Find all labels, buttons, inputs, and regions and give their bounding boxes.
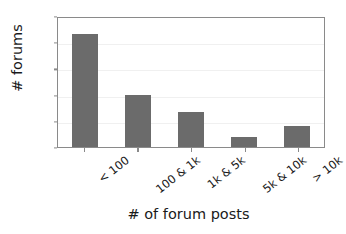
- x-tick-mark: [298, 148, 299, 152]
- x-tick-label: 1k & 5k: [205, 153, 248, 191]
- bar: [284, 126, 310, 147]
- x-tick-mark: [191, 148, 192, 152]
- x-tick-label: 100 & 1k: [153, 153, 203, 196]
- bar: [125, 95, 151, 147]
- bar-series: [58, 18, 324, 147]
- x-tick-label: > 10k: [310, 153, 346, 185]
- y-axis-title: # forums: [9, 8, 25, 108]
- bar: [72, 34, 98, 147]
- x-tick-mark: [137, 148, 138, 152]
- x-tick-mark: [245, 148, 246, 152]
- x-tick-label: < 100: [95, 153, 131, 186]
- bar: [231, 137, 257, 147]
- x-tick-label: 5k & 10k: [260, 153, 309, 196]
- x-tick-mark: [84, 148, 85, 152]
- plot-area: [57, 17, 325, 148]
- bar: [178, 112, 204, 147]
- x-axis-title: # of forum posts: [0, 206, 343, 222]
